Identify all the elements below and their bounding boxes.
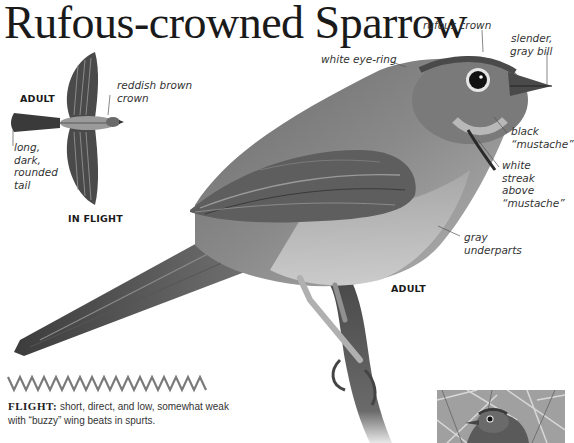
callout-long-dark-rounded-tail: long, dark, rounded tail: [14, 141, 58, 191]
callout-gray-underparts: gray underparts: [464, 231, 522, 256]
callout-white-streak-above-mustache: white streak above “mustache”: [502, 159, 565, 209]
main-adult-label: ADULT: [391, 283, 426, 294]
thumbnail-photo-art: [437, 390, 565, 443]
flight-description: FLIGHT: short, direct, and low, somewhat…: [8, 399, 248, 428]
callout-white-eye-ring: white eye-ring: [321, 53, 397, 66]
in-flight-label: IN FLIGHT: [68, 213, 123, 224]
flight-lead: FLIGHT:: [8, 400, 57, 412]
callout-black-mustache: black “mustache”: [511, 125, 574, 150]
callout-rufous-crown: rufous crown: [423, 19, 491, 32]
callout-slender-gray-bill: slender, gray bill: [510, 32, 552, 57]
flight-adult-label: ADULT: [20, 93, 55, 104]
sparrow-in-brush-photo: [437, 390, 565, 443]
callout-reddish-brown-crown: reddish brown crown: [117, 79, 192, 104]
zigzag-flight-path-icon: [8, 377, 206, 390]
